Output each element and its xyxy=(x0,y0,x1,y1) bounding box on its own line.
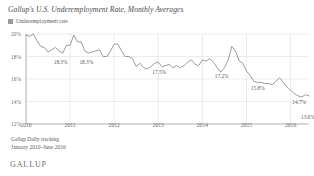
plot-area: 12%14%16%18%20% 18.3%18.3%17.5%17.2%15.8… xyxy=(0,28,314,132)
x-axis-tick-label: 2010 xyxy=(13,122,39,129)
x-axis-tick-label: 2014 xyxy=(189,122,215,129)
y-axis-tick-label: 14% xyxy=(3,99,21,105)
x-axis-tick-label: 2013 xyxy=(145,122,171,129)
x-axis-tick-label: 2016 xyxy=(278,122,304,129)
y-axis-tick-label: 18% xyxy=(3,54,21,60)
x-axis-tick-label: 2011 xyxy=(57,122,83,129)
gridlines xyxy=(26,34,309,124)
gallup-logo: GALLUP xyxy=(10,160,47,169)
x-axis-ticks: 2010201120122013201420152016 xyxy=(0,122,314,132)
source-note: Gallup Daily tracking January 2010–June … xyxy=(11,136,66,151)
data-point-label: 13.6% xyxy=(301,114,314,120)
line-chart-svg xyxy=(0,28,314,132)
data-point-label: 17.5% xyxy=(152,69,166,75)
x-axis-tick-label: 2012 xyxy=(101,122,127,129)
chart-legend: Underemployment rate xyxy=(8,18,68,24)
legend-swatch-icon xyxy=(8,19,13,24)
legend-label: Underemployment rate xyxy=(16,18,68,24)
page-title: Gallup's U.S. Underemployment Rate, Mont… xyxy=(8,5,183,14)
y-axis-tick-label: 16% xyxy=(3,76,21,82)
data-point-label: 17.2% xyxy=(215,73,229,79)
source-note-line1: Gallup Daily tracking xyxy=(11,136,66,144)
data-point-label: 15.8% xyxy=(251,85,265,91)
data-point-label: 14.7% xyxy=(292,99,306,105)
x-axis-tick-label: 2015 xyxy=(234,122,260,129)
data-point-label: 18.3% xyxy=(54,59,68,65)
y-axis-tick-label: 20% xyxy=(3,31,21,37)
data-point-label: 18.3% xyxy=(79,59,93,65)
chart-page: Gallup's U.S. Underemployment Rate, Mont… xyxy=(0,0,314,176)
source-note-line2: January 2010–June 2016 xyxy=(11,144,66,152)
series-line-underemployment-rate xyxy=(26,34,309,97)
